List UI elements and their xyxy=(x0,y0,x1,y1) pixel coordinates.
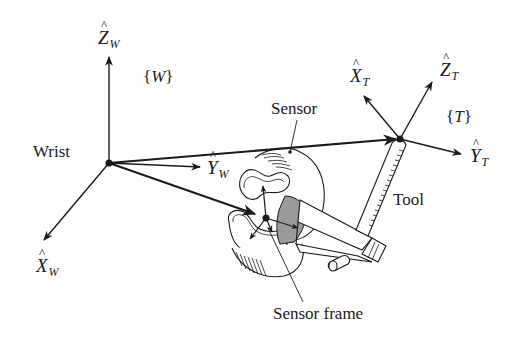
sensor-label: Sensor xyxy=(271,100,317,117)
sensor-leader-dot xyxy=(288,150,292,154)
x-w-axis-arrow xyxy=(44,163,109,240)
x-t-axis-label: XT xyxy=(350,66,369,85)
wrist-label: Wrist xyxy=(33,143,70,160)
y-w-axis-arrow xyxy=(109,163,200,167)
tool-rod-drawing xyxy=(356,140,406,236)
z-t-axis-arrow xyxy=(400,82,432,139)
diagram-canvas xyxy=(0,0,515,344)
sensor-frame-label: Sensor frame xyxy=(273,305,363,322)
y-t-axis-label: YT xyxy=(470,146,488,165)
y-w-axis-label: YW xyxy=(207,158,229,177)
x-w-axis-label: XW xyxy=(36,256,59,275)
y-t-axis-arrow xyxy=(400,139,461,154)
wrist-origin-dot xyxy=(106,160,113,167)
tool-label: Tool xyxy=(393,191,424,208)
wrist-to-sensor-vector xyxy=(109,163,255,214)
tool-origin-dot xyxy=(397,136,404,143)
wrist-frame-axes xyxy=(44,57,396,240)
sensor-origin-dot xyxy=(263,215,270,222)
z-t-axis-label: ZT xyxy=(440,60,458,79)
frame-t-label: {T} xyxy=(446,108,472,125)
z-w-axis-label: ZW xyxy=(98,28,120,47)
wrist-to-tool-vector xyxy=(109,139,396,163)
frame-w-label: {W} xyxy=(143,68,174,85)
x-t-axis-arrow xyxy=(364,96,400,139)
